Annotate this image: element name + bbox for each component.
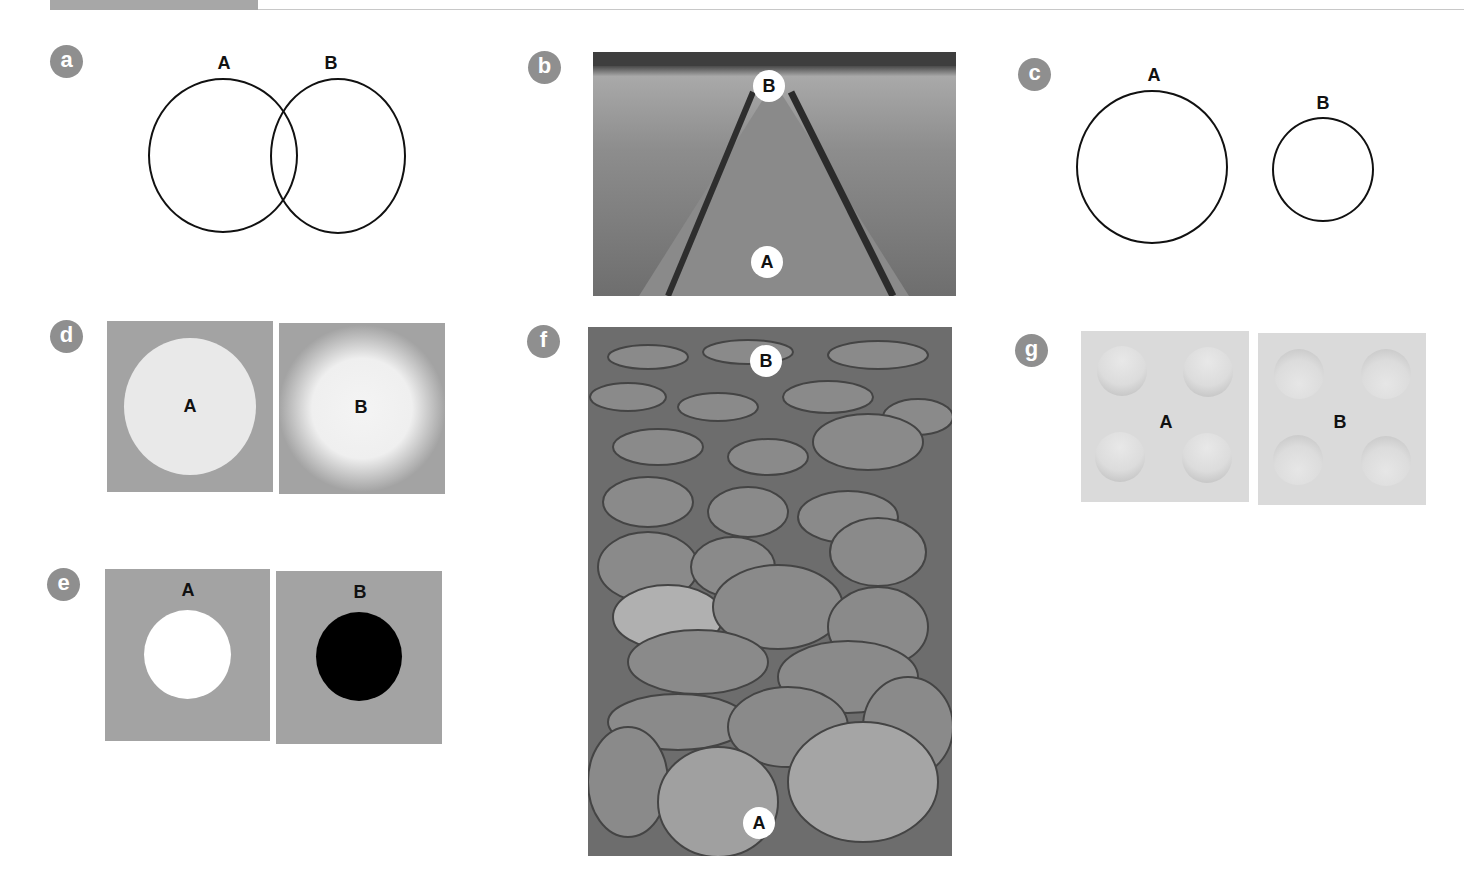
panel-d-label-b: B: [355, 397, 368, 418]
panel-d-badge: d: [50, 320, 83, 353]
panel-d-label-a: A: [184, 396, 197, 417]
panel-c-label-a: A: [1148, 65, 1161, 86]
panel-e-badge: e: [47, 568, 80, 601]
small-circle-b: [1272, 117, 1374, 222]
panel-c-badge: c: [1018, 58, 1051, 91]
panel-f-badge: f: [527, 325, 560, 358]
panel-g-label-a: A: [1160, 412, 1173, 433]
circle-b: [270, 78, 406, 234]
panel-c-label-b: B: [1317, 93, 1330, 114]
panel-g-badge: g: [1015, 334, 1048, 367]
header-rule: [258, 9, 1464, 10]
header-bar: [50, 0, 258, 10]
railway-label-b: B: [753, 70, 785, 102]
panel-a-label-b: B: [325, 53, 338, 74]
pebbles-photo: [588, 327, 952, 856]
panel-g-label-b: B: [1334, 412, 1347, 433]
pebbles-label-a: A: [743, 807, 775, 839]
panel-b-badge: b: [528, 51, 561, 84]
railway-label-a: A: [751, 246, 783, 278]
panel-a-label-a: A: [218, 53, 231, 74]
panel-e-label-b: B: [354, 582, 367, 603]
large-circle-a: [1076, 90, 1228, 244]
panel-a-badge: a: [50, 45, 83, 78]
pebbles-label-b: B: [750, 345, 782, 377]
panel-e-label-a: A: [182, 580, 195, 601]
